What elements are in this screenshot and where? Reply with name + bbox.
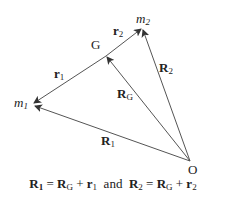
point-m2-label: m2 (136, 12, 150, 27)
vector-R2-label: R2 (159, 61, 173, 76)
point-O-label: O (188, 163, 197, 176)
point-m1-label: m1 (14, 96, 28, 111)
vector-equation: R1 = RG + r1 and R2 = RG + r2 (0, 176, 226, 192)
vector-RG-label: RG (117, 87, 133, 102)
vector-r1-label: r1 (54, 67, 64, 82)
vector-R2 (143, 30, 190, 161)
vector-r2-label: r2 (113, 24, 123, 39)
vector-r2 (106, 29, 141, 56)
vector-RG (107, 57, 190, 161)
vector-R1-label: R1 (101, 134, 115, 149)
point-G-label: G (91, 38, 100, 51)
vector-r1 (34, 56, 106, 103)
